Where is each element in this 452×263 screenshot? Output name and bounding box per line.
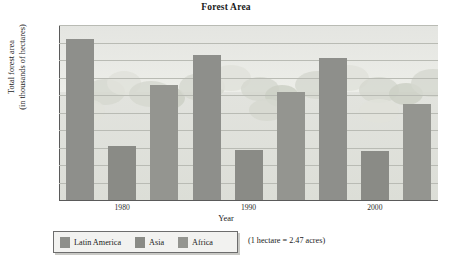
bar-africa-2000 [403,104,431,200]
foliage-icon [359,99,399,123]
legend-swatch-icon [178,237,188,248]
legend-label: Africa [192,238,213,247]
legend-item-africa: Africa [178,237,213,248]
gridline [59,78,438,79]
gridline [59,25,438,26]
plot-area: 10009008007006005004003002001000 [59,25,438,201]
chart-title: Forest Area [0,2,452,12]
y-axis-title-line1: Total forest area [6,0,17,147]
x-axis-tick-label: 1990 [219,203,279,212]
legend-item-asia: Asia [135,237,164,248]
legend-swatch-icon [60,237,70,248]
bar-asia-2000 [361,151,389,200]
legend-swatch-icon [135,237,145,248]
y-axis-title-line2: (in thousands of hectares) [17,0,28,147]
gridline [59,113,438,114]
gridline [59,95,438,96]
legend-label: Asia [149,238,164,247]
gridline [59,60,438,61]
legend-item-latin-america: Latin America [60,237,121,248]
legend-label: Latin America [74,238,121,247]
x-axis-tick-label: 2000 [345,203,405,212]
legend: Latin America Asia Africa [53,231,238,253]
forest-area-chart: Forest Area Total forest area (in thousa… [0,0,452,263]
bar-africa-1990 [277,92,305,201]
x-axis-line [59,200,438,201]
x-axis-tick-label: 1980 [92,203,152,212]
bar-africa-1980 [150,85,178,200]
bar-asia-1990 [235,150,263,200]
bar-asia-1980 [108,146,136,200]
bar-latin-america-1980 [66,39,94,200]
y-axis-title: Total forest area (in thousands of hecta… [6,0,30,147]
bar-latin-america-2000 [319,58,347,200]
bar-latin-america-1990 [193,55,221,200]
x-axis-title: Year [0,214,452,223]
gridline [59,43,438,44]
conversion-note: (1 hectare = 2.47 acres) [248,236,325,245]
gridline [59,130,438,131]
